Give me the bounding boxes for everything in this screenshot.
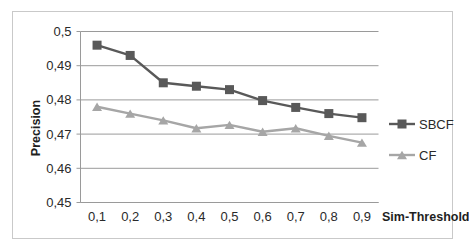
y-tick-label: 0,48 — [46, 92, 71, 107]
legend-item-cf[interactable]: CF — [389, 148, 436, 163]
series-sbcf — [93, 41, 367, 123]
x-axis-title: Sim-Threshold — [382, 210, 469, 224]
x-tick-label: 0,9 — [353, 209, 371, 224]
x-axis-tick-labels: 0,10,20,30,40,50,60,70,80,9 — [88, 209, 371, 224]
y-tick-label: 0,45 — [46, 195, 71, 210]
y-tick-label: 0,5 — [53, 24, 71, 39]
chart-plot-area: 0,450,460,470,480,490,5 0,10,20,30,40,50… — [0, 0, 469, 252]
data-point-marker — [258, 96, 267, 105]
x-tick-label: 0,2 — [121, 209, 139, 224]
gridlines — [81, 32, 379, 203]
y-axis-title: Precision — [29, 100, 43, 156]
data-point-marker — [93, 41, 102, 50]
legend-label: SBCF — [419, 117, 454, 132]
data-point-marker — [324, 109, 333, 118]
data-point-marker — [398, 120, 407, 129]
x-tick-label: 0,7 — [287, 209, 305, 224]
x-tick-label: 0,8 — [320, 209, 338, 224]
data-point-marker — [159, 78, 168, 87]
data-point-marker — [126, 51, 135, 60]
chart-legend: SBCFCF — [389, 117, 454, 163]
series-line — [97, 45, 362, 118]
data-series — [92, 41, 367, 147]
x-tick-label: 0,3 — [154, 209, 172, 224]
x-tick-label: 0,1 — [88, 209, 106, 224]
data-point-marker — [192, 82, 201, 91]
y-tick-label: 0,47 — [46, 127, 71, 142]
data-point-marker — [291, 103, 300, 112]
legend-label: CF — [419, 148, 436, 163]
x-tick-label: 0,5 — [220, 209, 238, 224]
y-axis-tick-labels: 0,450,460,470,480,490,5 — [46, 24, 71, 210]
data-point-marker — [357, 113, 366, 122]
chart-container: 0,450,460,470,480,490,5 0,10,20,30,40,50… — [0, 0, 469, 252]
y-tick-label: 0,46 — [46, 161, 71, 176]
x-tick-label: 0,4 — [187, 209, 205, 224]
data-point-marker — [225, 85, 234, 94]
legend-item-sbcf[interactable]: SBCF — [389, 117, 454, 132]
x-tick-label: 0,6 — [254, 209, 272, 224]
y-tick-label: 0,49 — [46, 58, 71, 73]
